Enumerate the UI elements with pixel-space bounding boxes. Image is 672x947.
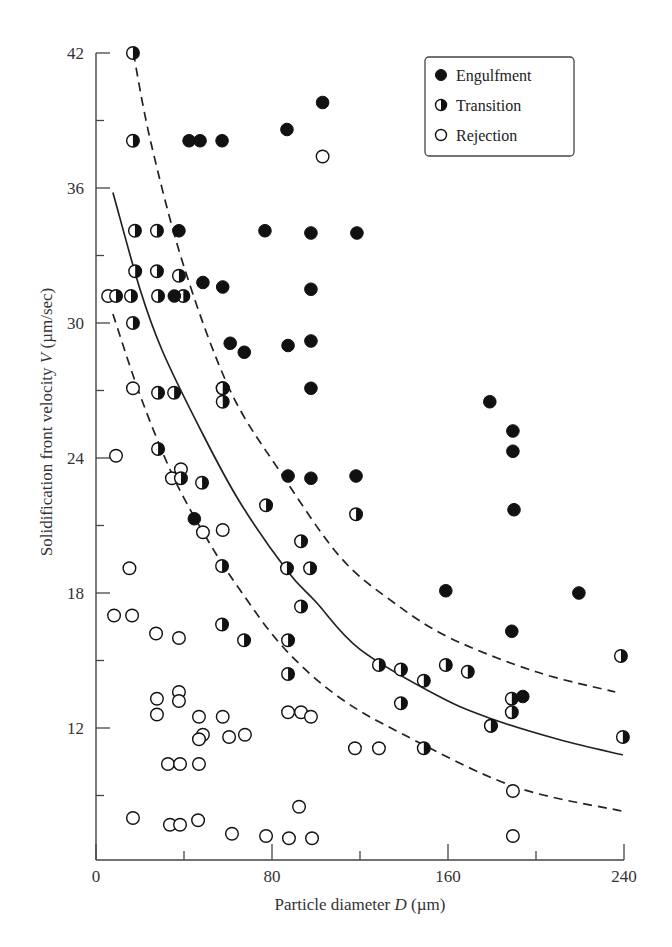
fit-curves [113,53,623,811]
transition-point [440,659,453,672]
transition-point [617,731,630,744]
legend-label-rejection: Rejection [456,127,517,145]
engulfment-point [351,227,364,240]
engulfment-point [573,587,586,600]
transition-point [462,665,475,678]
legend-label-engulfment: Engulfment [456,67,532,85]
rejection-point [260,830,273,843]
rejection-point [151,692,164,705]
rejection-point [127,812,140,825]
fit-curve [113,193,623,756]
engulfment-point [508,503,521,516]
scatter-chart: 080160240121824303642 EngulfmentTransiti… [0,0,672,947]
transition-point [304,562,317,575]
rejection-point [349,742,362,755]
rejection-point [123,562,136,575]
x-tick-label: 80 [264,867,281,886]
transition-legend-marker [436,100,447,111]
transition-point [506,706,519,719]
y-axis-title: Solidification front velocity V (µm/sec) [37,288,56,557]
rejection-point [192,814,205,827]
transition-point [173,269,186,282]
engulfment-point [305,472,318,485]
rejection-point [173,632,186,645]
transition-point [152,443,165,456]
transition-point [168,386,181,399]
rejection-point [174,758,187,771]
legend: EngulfmentTransitionRejection [425,57,574,156]
transition-point [418,742,431,755]
x-tick-label: 0 [92,867,101,886]
engulfment-point [305,382,318,395]
transition-point [216,395,229,408]
engulfment-point [305,335,318,348]
transition-point [485,719,498,732]
engulfment-point [282,339,295,352]
rejection-point [193,710,206,723]
engulfment-point [316,96,329,109]
transition-point [175,472,188,485]
engulfment-point [168,290,181,303]
rejection-point [127,382,140,395]
engulfment-legend-marker [436,70,447,81]
rejection-point [293,800,306,813]
engulfment-point [216,134,229,147]
engulfment-point [281,123,294,136]
engulfment-point [259,224,272,237]
transition-point [418,674,431,687]
transition-point [152,290,165,303]
transition-point [373,659,386,672]
transition-point [395,663,408,676]
transition-point [129,265,142,278]
transition-point [238,634,251,647]
transition-point [216,382,229,395]
rejection-point [193,758,206,771]
x-tick-label: 160 [435,867,461,886]
rejection-point [110,449,123,462]
transition-point [282,668,295,681]
legend-label-transition: Transition [456,97,521,114]
engulfment-point [484,395,497,408]
transition-point [216,618,229,631]
engulfment-point [305,283,318,296]
rejection-point [373,742,386,755]
rejection-point [197,526,210,539]
engulfment-point [194,134,207,147]
engulfment-point [506,625,519,638]
transition-point [350,508,363,521]
engulfment-point [197,276,210,289]
rejection-point [216,710,229,723]
rejection-point [282,706,295,719]
y-tick-label: 24 [67,449,85,468]
engulfment-point [224,337,237,350]
rejection-point [306,832,319,845]
engulfment-point [282,470,295,483]
transition-point [110,290,123,303]
data-points [102,47,629,845]
rejection-point [316,150,329,163]
engulfment-point [440,584,453,597]
transition-point [295,535,308,548]
engulfment-point [517,690,530,703]
y-tick-label: 30 [67,314,84,333]
x-tick-label: 240 [611,867,637,886]
rejection-point [151,708,164,721]
rejection-point [239,728,252,741]
rejection-point [226,827,239,840]
rejection-point [108,609,121,622]
engulfment-point [173,224,186,237]
transition-point [127,134,140,147]
transition-point [125,290,138,303]
transition-point [506,692,519,705]
transition-point [216,560,229,573]
y-tick-label: 12 [67,719,84,738]
engulfment-point [238,346,251,359]
engulfment-point [216,281,229,294]
transition-point [395,697,408,710]
transition-point [152,386,165,399]
y-tick-label: 36 [67,179,84,198]
transition-point [295,600,308,613]
transition-point [127,317,140,330]
rejection-point [162,758,175,771]
y-tick-label: 18 [67,584,84,603]
